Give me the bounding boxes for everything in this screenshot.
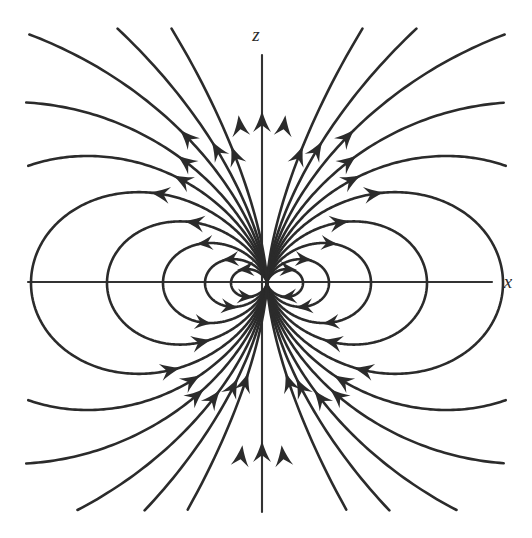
dipole-field-diagram: z x [0,0,532,538]
z-axis-label: z [251,24,260,45]
dipole-field-figure: z x [0,0,532,538]
x-axis-label: x [503,271,513,292]
